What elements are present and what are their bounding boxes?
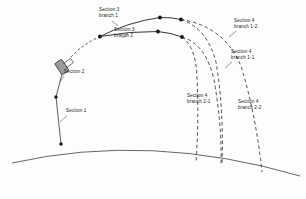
section-3-branch-1-path-b: [160, 17, 181, 19]
label-section-3-branch-1-line2: branch 1: [99, 13, 120, 19]
section-3-branch-2-path-b: [158, 32, 182, 38]
label-section-4-branch-1-2-line2: branch 1-2: [234, 24, 257, 30]
label-section-3-branch-2-line2: branch 2: [114, 33, 135, 39]
section-1-leader: [60, 116, 67, 122]
label-section-4-branch-1-1: Section 4 branch 1-1: [231, 49, 254, 60]
section-1-path: [56, 97, 61, 144]
label-section-4-branch-2-1-line1: Section 4: [187, 93, 208, 98]
label-section-2: Section 2: [64, 69, 85, 75]
trajectory-diagram: Section 1 Section 2 Section 3 branch 1 S…: [0, 0, 306, 199]
label-section-3-branch-2-line1: Section 3: [114, 27, 135, 32]
label-section-4-branch-1-1-line1: Section 4: [231, 49, 252, 54]
section-3-branch-1-leader: [112, 21, 118, 26]
label-section-4-branch-2-2-line2: branch 2-2: [238, 105, 261, 111]
label-section-3-branch-2: Section 3 branch 2: [114, 27, 135, 38]
label-section-1-line1: Section 1: [66, 108, 87, 113]
label-section-4-branch-1-1-line2: branch 1-1: [231, 55, 254, 61]
label-section-3-branch-1: Section 3 branch 1: [99, 7, 120, 18]
label-section-4-branch-1-2: Section 4 branch 1-2: [234, 18, 257, 29]
section-2-dashed-arc: [71, 37, 99, 57]
earth-surface-arc: [12, 150, 300, 176]
label-section-1: Section 1: [66, 108, 87, 114]
label-section-3-branch-1-line1: Section 3: [99, 7, 120, 12]
label-section-4-branch-2-1-line2: branch 2-1: [187, 99, 210, 105]
label-section-4-branch-1-2-line1: Section 4: [234, 18, 255, 23]
section-4-branch-1-2-leader: [229, 31, 236, 37]
label-section-4-branch-2-2: Section 4 branch 2-2: [238, 99, 261, 110]
label-section-2-line1: Section 2: [64, 69, 85, 74]
label-section-4-branch-2-1: Section 4 branch 2-1: [187, 93, 210, 104]
section-4-branch-1-1-leader: [225, 62, 232, 68]
section-2-lower-path: [56, 74, 62, 97]
label-section-4-branch-2-2-line1: Section 4: [238, 99, 259, 104]
